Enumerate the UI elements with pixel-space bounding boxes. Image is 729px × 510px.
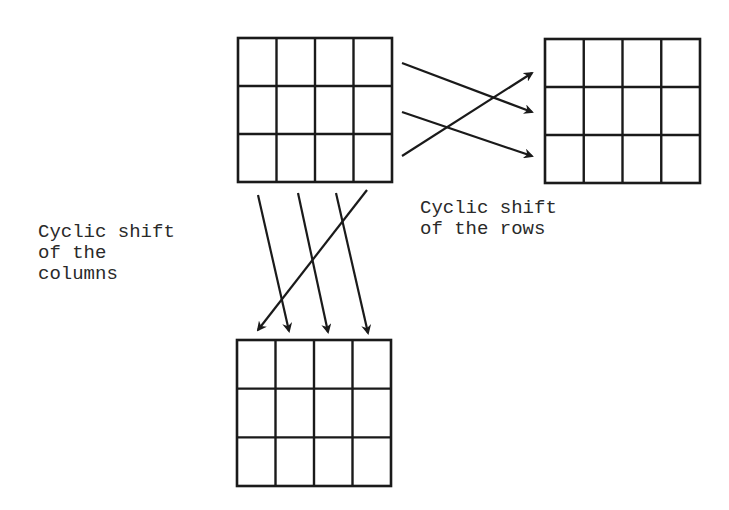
matrix-grid-source xyxy=(238,38,392,182)
row-arrow-1 xyxy=(402,63,532,112)
matrix-grid-column-shifted xyxy=(237,340,391,486)
matrix-grids xyxy=(237,38,700,486)
column-arrow-2 xyxy=(298,193,328,332)
matrix-grid-row-shifted xyxy=(545,39,700,183)
column-arrow-3 xyxy=(336,193,368,333)
columns-shift-label: Cyclic shift of the columns xyxy=(38,222,175,285)
column-shift-arrows xyxy=(258,190,368,333)
rows-shift-label: Cyclic shift of the rows xyxy=(420,198,557,240)
row-arrow-2 xyxy=(402,112,532,156)
row-shift-arrows xyxy=(402,63,532,156)
row-arrow-3 xyxy=(402,73,532,156)
